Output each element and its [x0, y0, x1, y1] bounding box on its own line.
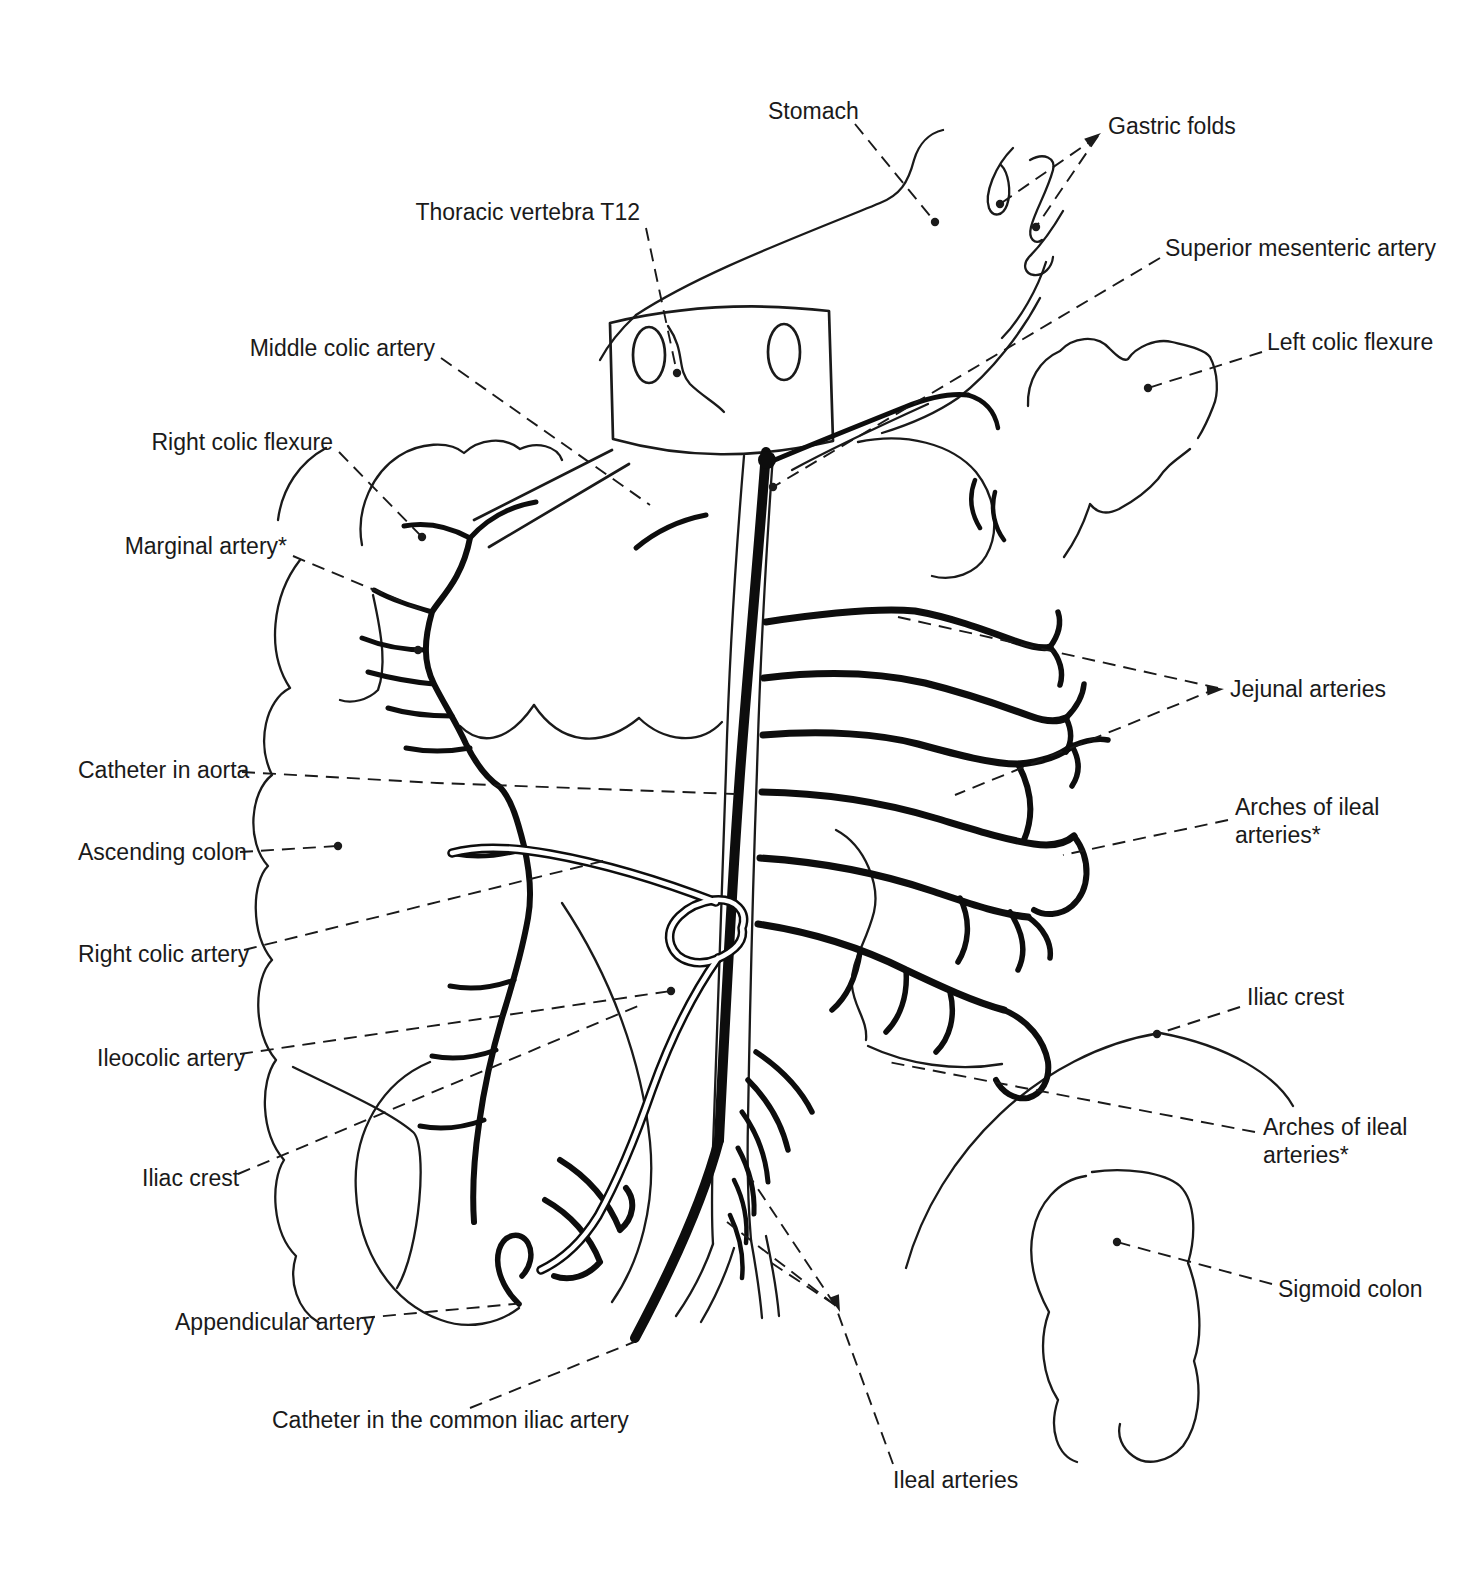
label-text-jejunal-arteries: Jejunal arteries — [1230, 676, 1386, 702]
leader-line — [646, 228, 677, 373]
leader-arrowhead — [1084, 129, 1104, 147]
marginal-artery-vessel — [362, 502, 632, 1304]
leader-line — [470, 1342, 634, 1408]
jejunal-branches — [758, 395, 1108, 1099]
label-left-colic-flexure: Left colic flexure — [1144, 329, 1433, 392]
label-catheter-in-aorta: Catheter in aorta — [78, 757, 735, 794]
label-text-middle-colic-artery: Middle colic artery — [250, 335, 436, 361]
leader-line — [1157, 1007, 1240, 1034]
label-text-arches-of-ileal-arteries-upper: Arches of ilealarteries* — [1235, 794, 1379, 848]
figure-page: StomachGastric foldsThoracic vertebra T1… — [0, 0, 1482, 1581]
iliac-crest-lines — [562, 903, 1293, 1302]
anatomy-artwork — [253, 130, 1293, 1462]
leader-dot — [673, 369, 681, 377]
label-iliac-crest-right: Iliac crest — [1153, 984, 1345, 1038]
label-thoracic-vertebra-t12: Thoracic vertebra T12 — [415, 199, 681, 377]
leader-dot — [1144, 384, 1152, 392]
leader-line — [240, 846, 338, 852]
leader-arrowhead — [829, 1294, 844, 1313]
leader-line — [362, 1303, 525, 1318]
leader-dot — [334, 842, 342, 850]
leader-dot — [1113, 1238, 1121, 1246]
leader-line — [1000, 136, 1098, 204]
label-text-iliac-crest-right: Iliac crest — [1247, 984, 1345, 1010]
label-text-iliac-crest-left: Iliac crest — [142, 1165, 240, 1191]
leader-dot — [418, 533, 426, 541]
leader-dot — [414, 646, 422, 654]
leader-line — [240, 991, 671, 1054]
leader-dot — [1032, 223, 1040, 231]
label-text-stomach: Stomach — [768, 98, 859, 124]
leader-dot — [667, 987, 675, 995]
label-text-right-colic-artery: Right colic artery — [78, 941, 250, 967]
label-arches-of-ileal-arteries-upper: Arches of ilealarteries* — [1063, 794, 1379, 855]
leader-line — [238, 1006, 638, 1174]
leader-line — [750, 1177, 835, 1305]
leader-line — [1148, 352, 1262, 388]
appendicular-artery-vessel — [498, 1235, 531, 1304]
label-text-appendicular-artery: Appendicular artery — [175, 1309, 375, 1335]
leader-line — [1036, 136, 1098, 227]
label-ileocolic-artery: Ileocolic artery — [97, 987, 675, 1071]
stomach-outline — [600, 130, 1046, 433]
gastric-folds-drawing — [988, 148, 1063, 275]
middle-colic-artery-vessel — [474, 450, 706, 548]
label-text-marginal-artery: Marginal artery* — [125, 533, 287, 559]
label-text-ileal-arteries: Ileal arteries — [893, 1467, 1018, 1493]
ileal-branches — [730, 1052, 812, 1278]
leader-dot — [1153, 1030, 1161, 1038]
label-text-arches-of-ileal-arteries-lower: Arches of ilealarteries* — [1263, 1114, 1407, 1168]
vertebra-drawing — [610, 307, 833, 455]
leader-line — [1117, 1242, 1272, 1284]
leader-line — [244, 860, 607, 950]
label-text-catheter-in-common-iliac: Catheter in the common iliac artery — [272, 1407, 629, 1433]
label-appendicular-artery: Appendicular artery — [175, 1303, 525, 1335]
anatomy-diagram: StomachGastric foldsThoracic vertebra T1… — [0, 0, 1482, 1581]
label-sigmoid-colon: Sigmoid colon — [1113, 1238, 1423, 1302]
label-text-superior-mesenteric-artery: Superior mesenteric artery — [1165, 235, 1436, 261]
label-text-thoracic-vertebra-t12: Thoracic vertebra T12 — [415, 199, 640, 225]
label-text-ileocolic-artery: Ileocolic artery — [97, 1045, 246, 1071]
label-text-left-colic-flexure: Left colic flexure — [1267, 329, 1433, 355]
label-text-ascending-colon: Ascending colon — [78, 839, 247, 865]
leader-dot — [996, 200, 1004, 208]
label-text-sigmoid-colon: Sigmoid colon — [1278, 1276, 1422, 1302]
leader-dot — [931, 218, 939, 226]
label-catheter-in-common-iliac: Catheter in the common iliac artery — [272, 1342, 634, 1433]
label-ileal-arteries: Ileal arteries — [727, 1177, 1018, 1493]
label-middle-colic-artery: Middle colic artery — [250, 335, 650, 505]
leader-dot — [769, 483, 777, 491]
label-superior-mesenteric-artery: Superior mesenteric artery — [769, 235, 1437, 491]
label-text-catheter-in-aorta: Catheter in aorta — [78, 757, 250, 783]
label-jejunal-arteries: Jejunal arteries — [898, 617, 1386, 795]
leader-line — [835, 1305, 893, 1464]
label-text-gastric-folds: Gastric folds — [1108, 113, 1236, 139]
sigmoid-colon-outline — [1031, 1170, 1199, 1462]
left-colic-flexure-outline — [1028, 339, 1217, 557]
leader-line — [888, 1062, 1255, 1132]
label-gastric-folds: Gastric folds — [996, 113, 1236, 231]
label-text-right-colic-flexure: Right colic flexure — [151, 429, 333, 455]
leader-line — [1063, 820, 1228, 855]
label-ascending-colon: Ascending colon — [78, 839, 342, 865]
